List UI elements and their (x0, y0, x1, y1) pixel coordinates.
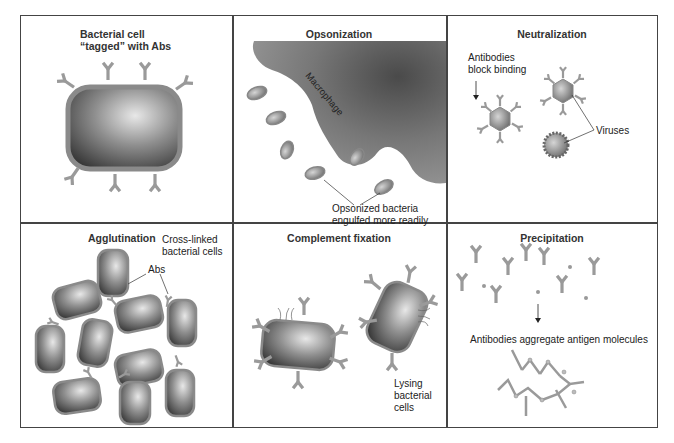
bacterial-cell (68, 87, 180, 169)
opsonization-illustration (232, 15, 446, 222)
neutralization-illustration (446, 15, 658, 222)
aggregate-lattice (498, 350, 584, 416)
panel-opsonization: Opsonization Macrophage Opsonized bacter… (232, 15, 446, 222)
panel-tagged: Bacterial cell “tagged” with Abs (20, 15, 232, 222)
panel-complement-fixation: Complement fixation Lysing bacterial cel… (232, 222, 446, 428)
lysing-cell-1 (260, 319, 336, 371)
lysing-label-line3: cells (394, 402, 414, 414)
virus-blocked-2 (539, 66, 587, 115)
antigen-molecules (482, 265, 588, 300)
precipitation-illustration (446, 222, 658, 428)
free-antibodies (456, 243, 600, 303)
lysing-cell-2 (362, 277, 432, 356)
panel-agglutination: Agglutination Cross-linked bacterial cel… (20, 222, 232, 428)
aggregate-label: Antibodies aggregate antigen molecules (470, 334, 660, 346)
tagged-cell-illustration (20, 15, 232, 222)
virus-free (544, 133, 568, 157)
lysing-label-line1: Lysing (394, 378, 423, 390)
panel-neutralization: Neutralization Antibodies block binding … (446, 15, 658, 222)
agglutination-illustration (20, 222, 232, 428)
panel-precipitation: Precipitation Antibodie (446, 222, 658, 428)
virus-blocked-1 (476, 94, 524, 143)
lysing-label-line2: bacterial (394, 390, 432, 402)
crosslinked-cells (36, 250, 196, 424)
opsonized-label-line1: Opsonized bacteria (332, 203, 418, 215)
